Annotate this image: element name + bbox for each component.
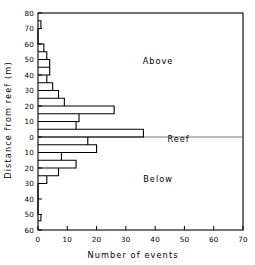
x-tick-label: 20 [92, 235, 102, 244]
region-label: Reef [167, 134, 189, 144]
y-axis-tick-labels: 80706050403020100102030405060 [24, 9, 34, 235]
y-tick-label: 10 [24, 148, 34, 157]
x-tick-label: 70 [238, 235, 248, 244]
x-tick-label: 30 [121, 235, 131, 244]
y-tick-label: 40 [24, 195, 34, 204]
x-tick-label: 50 [180, 235, 190, 244]
y-tick-label: 60 [24, 40, 34, 49]
y-axis-title: Distance from reef (m) [3, 61, 13, 178]
y-tick-label: 10 [24, 117, 34, 126]
y-tick-label: 40 [24, 71, 34, 80]
y-tick-label: 20 [24, 102, 34, 111]
y-tick-label: 80 [24, 9, 34, 18]
x-axis-title: Number of events [87, 250, 178, 260]
x-tick-label: 10 [63, 235, 73, 244]
y-tick-label: 60 [24, 226, 34, 235]
x-tick-label: 0 [36, 235, 41, 244]
region-label: Below [143, 174, 173, 184]
x-tick-label: 40 [150, 235, 160, 244]
y-tick-label: 70 [24, 24, 34, 33]
x-tick-label: 60 [209, 235, 219, 244]
events-vs-distance-histogram: 010203040506070 807060504030201001020304… [0, 0, 255, 265]
region-label: Above [143, 56, 174, 66]
y-tick-label: 0 [29, 133, 34, 142]
chart-figure: 010203040506070 807060504030201001020304… [0, 0, 255, 265]
y-tick-label: 30 [24, 86, 34, 95]
y-tick-label: 50 [24, 210, 34, 219]
y-tick-label: 20 [24, 164, 34, 173]
y-tick-label: 30 [24, 179, 34, 188]
y-tick-label: 50 [24, 55, 34, 64]
